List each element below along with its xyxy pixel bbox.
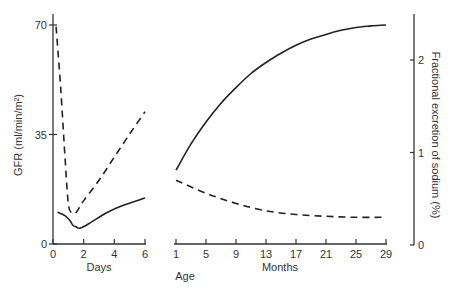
gfr-line-days xyxy=(58,198,145,228)
left-tick-label: 70 xyxy=(35,19,47,31)
days-label: Days xyxy=(86,261,112,273)
days-tick-label: 2 xyxy=(81,248,87,260)
chart: 0357001202461591317212529 GFR (ml/min/m²… xyxy=(0,0,456,293)
fena-line-days xyxy=(56,27,145,214)
gfr-line-months xyxy=(176,25,386,170)
months-tick-label: 13 xyxy=(260,248,272,260)
months-tick-label: 1 xyxy=(173,248,179,260)
days-tick-label: 6 xyxy=(142,248,148,260)
months-tick-label: 9 xyxy=(233,248,239,260)
right-axis-title: Fractional excretion of sodium (%) xyxy=(430,52,442,219)
months-label: Months xyxy=(262,261,299,273)
days-tick-label: 0 xyxy=(50,248,56,260)
right-tick-label: 2 xyxy=(418,54,424,66)
ticks xyxy=(49,25,414,245)
age-label: Age xyxy=(175,270,195,282)
right-tick-label: 0 xyxy=(418,239,424,251)
left-tick-label: 0 xyxy=(41,238,47,250)
months-tick-label: 25 xyxy=(350,248,362,260)
axes xyxy=(53,14,414,245)
months-tick-label: 5 xyxy=(203,248,209,260)
days-tick-label: 4 xyxy=(111,248,117,260)
left-tick-label: 35 xyxy=(35,129,47,141)
series xyxy=(56,25,386,228)
tick-labels: 0357001202461591317212529 xyxy=(35,19,424,260)
left-axis-title: GFR (ml/min/m²) xyxy=(12,94,24,176)
fena-line-months xyxy=(176,180,386,217)
months-tick-label: 21 xyxy=(320,248,332,260)
months-tick-label: 17 xyxy=(290,248,302,260)
months-tick-label: 29 xyxy=(380,248,392,260)
right-tick-label: 1 xyxy=(418,147,424,159)
